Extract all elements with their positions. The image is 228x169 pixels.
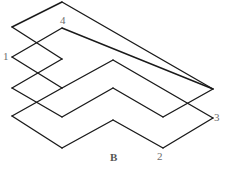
figure-container: 1 2 3 4 B [0,0,228,169]
vertex-label-2: 2 [157,151,163,162]
seg-top-left [12,2,62,27]
figure-caption-b: B [110,152,117,163]
vertex-label-1: 1 [3,51,9,62]
seg-bottom-to-peak [62,120,113,148]
vertex-label-4: 4 [60,15,66,26]
seg-mid-to-v4 [62,60,113,88]
seg-mid-arm-lower [62,88,113,117]
figure-line-group [12,2,213,148]
seg-peak-to-2 [113,120,163,148]
seg-2-to-3 [163,118,213,148]
seg-inner-top-right [62,28,213,89]
vertex-label-3: 3 [214,112,220,123]
seg-bottom-left-up [12,116,62,148]
line-drawing-svg [0,0,228,169]
seg-arm-peak-right [113,88,163,117]
